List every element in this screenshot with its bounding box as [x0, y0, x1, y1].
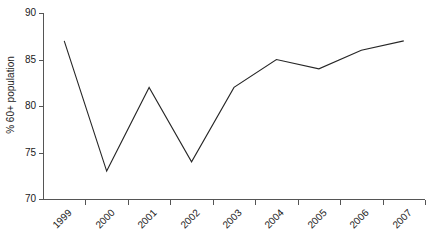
line-series-60plus-population: [64, 41, 404, 171]
chart-figure: % 60+ population 7075808590 199920002001…: [0, 0, 427, 238]
data-series-layer: [0, 0, 427, 238]
